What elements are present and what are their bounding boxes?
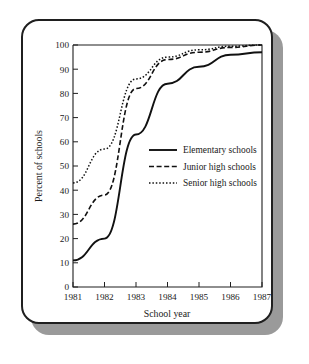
y-tick-label: 30 bbox=[60, 210, 70, 220]
figure-root: 0102030405060708090100 19811982198319841… bbox=[0, 0, 309, 364]
x-axis-ticks bbox=[73, 282, 262, 287]
y-tick-label: 20 bbox=[60, 234, 70, 244]
series-line-dashed bbox=[73, 45, 262, 224]
x-tick-label: 1982 bbox=[95, 292, 114, 302]
x-tick-label: 1984 bbox=[158, 292, 177, 302]
x-tick-label: 1983 bbox=[127, 292, 146, 302]
x-tick-label: 1987 bbox=[253, 292, 272, 302]
x-tick-label: 1986 bbox=[221, 292, 240, 302]
series-line-solid bbox=[73, 52, 262, 260]
x-axis-tick-labels: 1981198219831984198519861987 bbox=[64, 292, 272, 302]
y-tick-label: 100 bbox=[55, 40, 69, 50]
y-axis-ticks bbox=[73, 45, 78, 287]
y-tick-label: 90 bbox=[60, 65, 70, 75]
y-tick-label: 60 bbox=[60, 137, 70, 147]
y-axis-title: Percent of schools bbox=[33, 130, 44, 202]
x-axis-title: School year bbox=[144, 308, 191, 319]
legend-label: Senior high schools bbox=[183, 178, 257, 188]
legend-label: Junior high schools bbox=[183, 162, 256, 172]
y-tick-label: 80 bbox=[60, 89, 70, 99]
y-tick-label: 10 bbox=[60, 258, 70, 268]
y-tick-label: 70 bbox=[60, 113, 70, 123]
x-tick-label: 1985 bbox=[190, 292, 209, 302]
y-tick-label: 40 bbox=[60, 186, 70, 196]
y-tick-label: 0 bbox=[64, 282, 69, 292]
chart-legend: Elementary schoolsJunior high schoolsSen… bbox=[149, 145, 257, 188]
y-tick-label: 50 bbox=[60, 161, 70, 171]
line-chart: 0102030405060708090100 19811982198319841… bbox=[21, 19, 273, 324]
y-axis-tick-labels: 0102030405060708090100 bbox=[55, 40, 69, 292]
legend-label: Elementary schools bbox=[183, 145, 257, 155]
x-tick-label: 1981 bbox=[64, 292, 83, 302]
